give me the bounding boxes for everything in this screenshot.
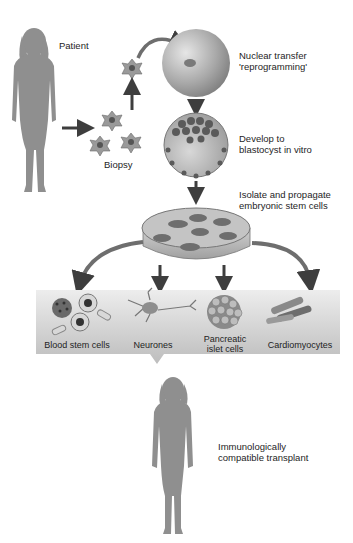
patient-label: Patient [59, 40, 89, 51]
blastocyst-label: Develop to blastocyst in vitro [239, 133, 312, 155]
petri-dish-icon [142, 208, 250, 259]
patient-silhouette-icon [12, 28, 56, 192]
cardiomyocytes-label: Cardiomyocytes [262, 340, 338, 350]
transplant-silhouette-icon [152, 377, 193, 534]
blastocyst-icon [164, 113, 228, 179]
biopsy-cells-icon [90, 59, 142, 156]
neurones-label: Neurones [128, 340, 178, 350]
islet-cells-label: Pancreatic islet cells [200, 334, 250, 354]
arrow-to-blood [80, 242, 143, 284]
nuclear-transfer-label: Nuclear transfer 'reprogramming' [239, 50, 307, 72]
transplant-label: Immunologically compatible transplant [218, 441, 308, 463]
stem-cells-label: Isolate and propagate embryonic stem cel… [239, 189, 331, 211]
arrow-to-cardio [252, 243, 310, 282]
egg-cell-icon [162, 29, 230, 97]
blood-stem-cells-label: Blood stem cells [38, 340, 116, 350]
biopsy-label: Biopsy [104, 159, 133, 170]
